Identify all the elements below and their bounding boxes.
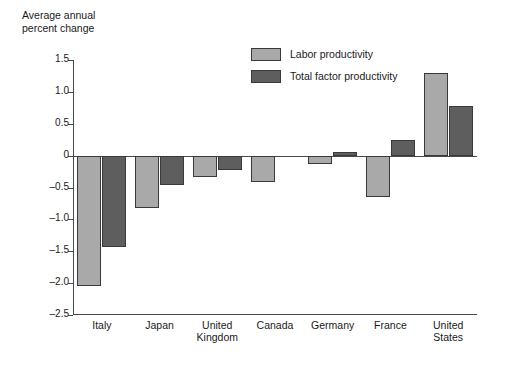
y-tick-label: 1.5 <box>55 53 69 64</box>
x-axis-label: United States <box>419 319 477 343</box>
y-tick-label: –2.0 <box>50 276 69 287</box>
y-tick-label: –0.5 <box>50 181 69 192</box>
y-tick-label: –1.5 <box>50 244 69 255</box>
bar <box>308 156 332 164</box>
y-axis-title: Average annual percent change <box>22 9 95 35</box>
y-tick-label: 1.0 <box>55 85 69 96</box>
y-tick-label: –2.5 <box>50 308 69 319</box>
bar <box>251 156 275 183</box>
legend-swatch <box>251 70 281 83</box>
legend-swatch <box>251 48 281 61</box>
y-axis-spine <box>73 60 74 315</box>
bar-chart-figure: Average annual percent change 1.51.00.50… <box>0 0 507 368</box>
x-axis-label: Germany <box>304 319 362 331</box>
zero-baseline <box>73 156 477 157</box>
y-tick-label: 0.5 <box>55 117 69 128</box>
x-axis-label: Italy <box>73 319 131 331</box>
x-axis-label: United Kingdom <box>188 319 246 343</box>
bar <box>366 156 390 197</box>
bar <box>77 156 101 287</box>
x-axis-label: Japan <box>131 319 189 331</box>
bar <box>102 156 126 248</box>
chart-legend: Labor productivityTotal factor productiv… <box>251 45 397 89</box>
plot-area: 1.51.00.50–0.5–1.0–1.5–2.0–2.5 ItalyJapa… <box>73 60 477 315</box>
bar <box>333 152 357 156</box>
x-axis-label: Canada <box>246 319 304 331</box>
legend-item: Labor productivity <box>251 45 397 63</box>
y-tick-label: 0 <box>63 149 69 160</box>
legend-label: Total factor productivity <box>290 70 397 82</box>
x-axis-label: France <box>362 319 420 331</box>
bar <box>391 140 415 156</box>
legend-item: Total factor productivity <box>251 67 397 85</box>
bar <box>424 73 448 156</box>
y-tick-label: –1.0 <box>50 212 69 223</box>
bar <box>160 156 184 185</box>
x-axis-spine <box>73 314 477 315</box>
bar <box>135 156 159 208</box>
bar <box>449 106 473 156</box>
bar <box>218 156 242 170</box>
bar <box>193 156 217 177</box>
legend-label: Labor productivity <box>290 48 373 60</box>
